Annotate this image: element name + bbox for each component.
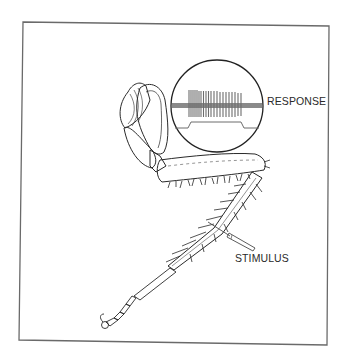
leg-claw	[100, 268, 176, 329]
leg-coxa	[120, 83, 168, 172]
response-label: RESPONSE	[267, 95, 326, 107]
response-inset	[171, 60, 263, 152]
leg-tibia	[157, 153, 270, 188]
frame-border	[19, 22, 329, 345]
leg-diagram	[0, 0, 346, 361]
stimulus-probe	[208, 222, 255, 251]
stimulus-label: STIMULUS	[235, 252, 289, 264]
